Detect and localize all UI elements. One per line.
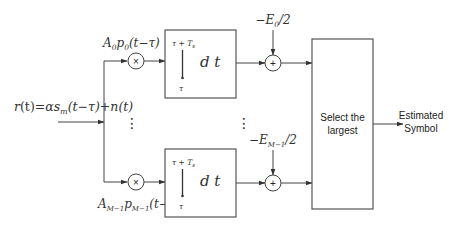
selector-label-line1: Select the bbox=[320, 112, 365, 123]
input-signal: r(t)=αsm(t−τ)+n(t) bbox=[14, 99, 133, 122]
ellipsis-left: ⋮ bbox=[125, 115, 139, 131]
select-largest-block: Select the largest bbox=[312, 39, 373, 209]
multiplier-icon: × bbox=[133, 177, 139, 188]
weight-label: A0p0(t−τ) bbox=[102, 36, 160, 52]
correlation-receiver-diagram: r(t)=αsm(t−τ)+n(t) A0p0(t−τ) × τ + Ts τ … bbox=[0, 0, 456, 231]
differential: d t bbox=[200, 53, 221, 71]
output-label-line2: Symbol bbox=[404, 123, 437, 134]
multiplier-icon: × bbox=[133, 56, 139, 67]
multiplier: × bbox=[128, 174, 144, 190]
integrator-box: τ + Ts τ d t bbox=[165, 149, 236, 217]
branch-M-1: × AM−1pM−1(t−τ) τ + Ts τ d t −EM−1/2 + bbox=[97, 133, 312, 217]
branch-0: A0p0(t−τ) × τ + Ts τ d t −E0/2 + bbox=[102, 13, 312, 98]
bias-label: −E0/2 bbox=[255, 13, 290, 29]
bias-label: −EM−1/2 bbox=[249, 133, 297, 149]
summer: + bbox=[265, 55, 281, 71]
differential: d t bbox=[200, 172, 221, 190]
plus-icon: + bbox=[270, 58, 276, 69]
output-label-line1: Estimated bbox=[399, 110, 443, 121]
ellipsis-right: ⋮ bbox=[237, 115, 251, 131]
summer: + bbox=[265, 175, 281, 191]
integrator-box: τ + Ts τ d t bbox=[165, 30, 236, 98]
plus-icon: + bbox=[270, 178, 276, 189]
multiplier: × bbox=[128, 53, 144, 69]
selector-label-line2: largest bbox=[327, 125, 357, 136]
integral-upper-limit: τ + Ts bbox=[172, 158, 195, 168]
integral-upper-limit: τ + Ts bbox=[172, 39, 195, 49]
input-label: r(t)=αsm(t−τ)+n(t) bbox=[14, 99, 133, 116]
